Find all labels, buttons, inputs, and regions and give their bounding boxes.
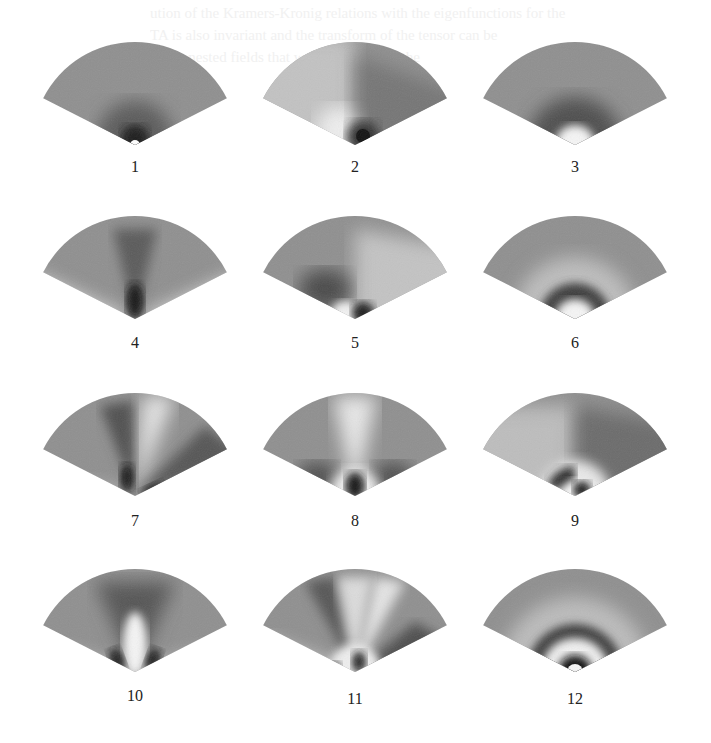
panel-2: 2 — [245, 35, 465, 205]
panel-7: 7 — [25, 386, 245, 556]
panel-3: 3 — [465, 35, 685, 205]
panel-12: 12 — [465, 562, 685, 732]
panel-11: 11 — [245, 562, 465, 732]
fan-plot-3 — [465, 35, 685, 165]
panel-label: 8 — [245, 512, 465, 530]
fan-plot-12 — [465, 562, 685, 692]
panel-label: 10 — [25, 687, 245, 705]
panel-label: 6 — [465, 334, 685, 352]
panel-10: 10 — [25, 562, 245, 732]
panel-6: 6 — [465, 209, 685, 379]
panel-label: 1 — [25, 158, 245, 176]
panel-label: 3 — [465, 158, 685, 176]
panel-5: 5 — [245, 209, 465, 379]
fan-plot-8 — [245, 386, 465, 516]
fan-plot-9 — [465, 386, 685, 516]
panel-label: 9 — [465, 512, 685, 530]
fan-plot-1 — [25, 35, 245, 165]
panel-label: 11 — [245, 690, 465, 708]
panel-8: 8 — [245, 386, 465, 556]
panel-4: 4 — [25, 209, 245, 379]
panel-1: 1 — [25, 35, 245, 205]
fan-plot-2 — [245, 35, 465, 165]
fan-plot-11 — [245, 562, 465, 692]
panel-label: 12 — [465, 690, 685, 708]
panel-9: 9 — [465, 386, 685, 556]
panel-label: 7 — [25, 512, 245, 530]
panel-label: 4 — [25, 334, 245, 352]
fan-plot-7 — [25, 386, 245, 516]
fan-plot-5 — [245, 209, 465, 339]
panel-label: 2 — [245, 158, 465, 176]
fan-plot-6 — [465, 209, 685, 339]
fan-plot-4 — [25, 209, 245, 339]
panel-label: 5 — [245, 334, 465, 352]
fan-plot-10 — [25, 562, 245, 692]
bleed-line: ution of the Kramers-Kronig relations wi… — [150, 2, 711, 24]
